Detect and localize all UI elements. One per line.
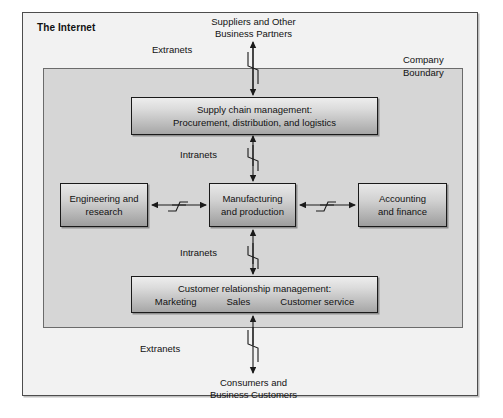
crm-line1: Customer relationship management:: [178, 282, 331, 295]
crm-sub-customer-service: Customer service: [280, 295, 354, 308]
process-box-accounting[interactable]: Accounting and finance: [358, 183, 447, 227]
supply-chain-line2: Procurement, distribution, and logistics: [173, 116, 336, 129]
network-label-intranets-upper: Intranets: [180, 149, 217, 161]
crm-sub-marketing: Marketing: [155, 295, 197, 308]
suppliers-line2: Business Partners: [215, 28, 292, 39]
process-box-engineering[interactable]: Engineering and research: [60, 183, 148, 227]
manufacturing-line2: and production: [221, 205, 284, 218]
crm-subfunctions: Marketing Sales Customer service: [132, 295, 377, 308]
internet-label: The Internet: [37, 22, 95, 33]
accounting-line2: and finance: [378, 205, 427, 218]
network-label-extranets-top: Extranets: [152, 44, 192, 56]
crm-sub-sales: Sales: [227, 295, 251, 308]
process-box-crm[interactable]: Customer relationship management: Market…: [131, 276, 378, 313]
engineering-line1: Engineering and: [69, 192, 138, 205]
suppliers-line1: Suppliers and Other: [211, 16, 296, 27]
consumers-line2: Business Customers: [210, 389, 297, 400]
process-box-supply-chain[interactable]: Supply chain management: Procurement, di…: [131, 97, 378, 135]
company-boundary-label-line2: Boundary: [403, 67, 444, 78]
network-label-intranets-lower: Intranets: [180, 247, 217, 259]
accounting-line1: Accounting: [379, 192, 426, 205]
consumers-line1: Consumers and: [220, 377, 287, 388]
company-boundary-label: Company Boundary: [403, 53, 444, 79]
manufacturing-line1: Manufacturing: [222, 192, 282, 205]
supply-chain-line1: Supply chain management:: [197, 103, 312, 116]
engineering-line2: research: [86, 205, 123, 218]
external-actor-consumers: Consumers and Business Customers: [196, 377, 311, 401]
external-actor-suppliers: Suppliers and Other Business Partners: [196, 16, 311, 40]
diagram-canvas: The Internet Company Boundary Suppliers …: [0, 0, 503, 418]
company-boundary-label-line1: Company: [403, 54, 444, 65]
network-label-extranets-bottom: Extranets: [140, 343, 180, 355]
process-box-manufacturing[interactable]: Manufacturing and production: [209, 183, 296, 227]
